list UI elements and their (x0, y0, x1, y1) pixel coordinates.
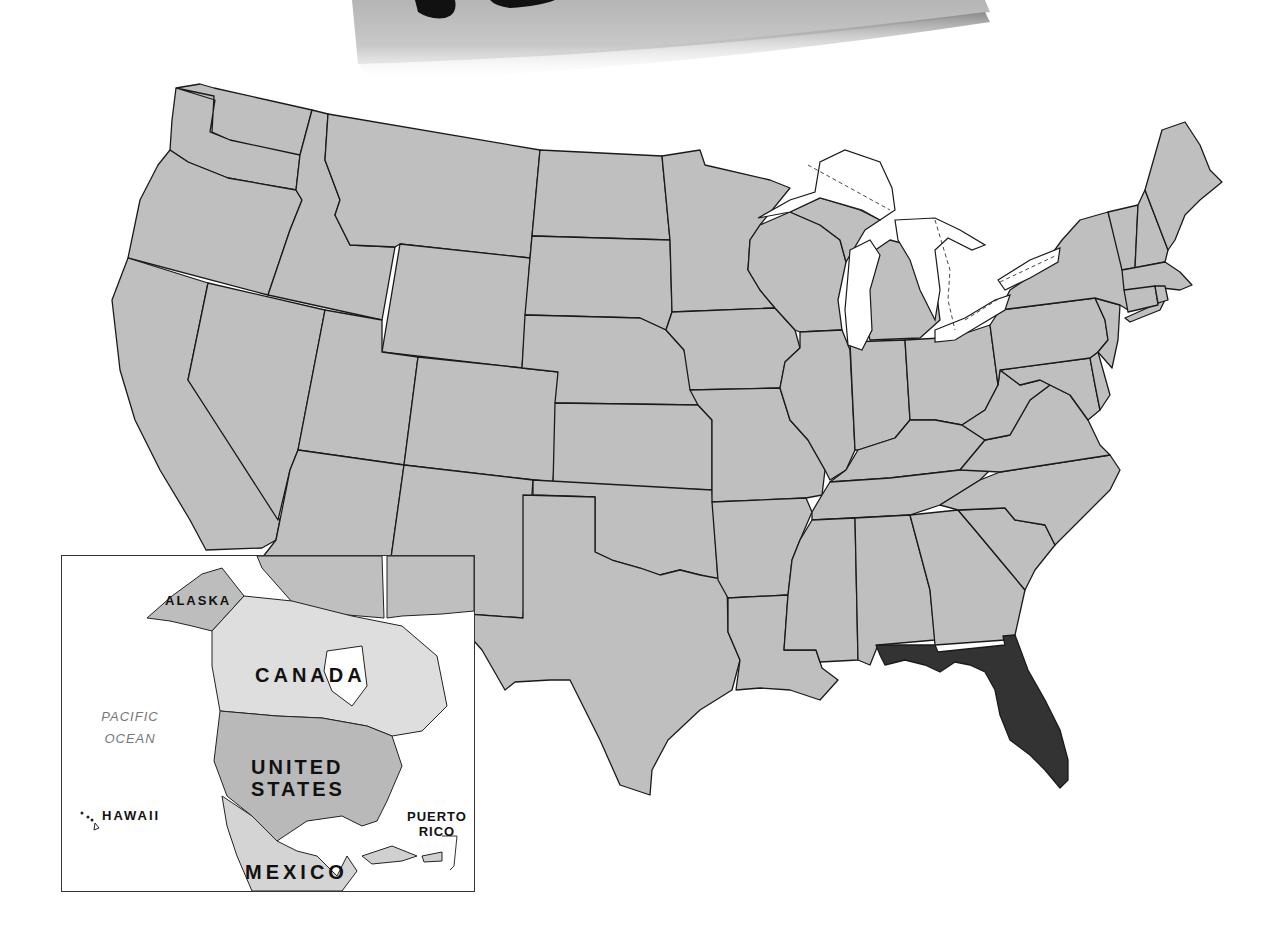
inset-north-america: ALASKA CANADA PACIFIC OCEAN UNITED STATE… (61, 555, 475, 892)
label-mexico: MEXICO (245, 861, 348, 884)
state-wyoming[interactable] (382, 244, 530, 368)
label-pacific-line1: PACIFIC (94, 706, 166, 728)
label-alaska: ALASKA (165, 593, 231, 608)
label-pacific-ocean: PACIFIC OCEAN (94, 706, 166, 750)
label-pr-line1: PUERTO (407, 809, 467, 824)
label-us-line1: UNITED (251, 756, 345, 778)
label-pacific-line2: OCEAN (94, 728, 166, 750)
label-hawaii: HAWAII (102, 808, 160, 823)
label-us-line2: STATES (251, 778, 345, 800)
state-montana[interactable] (325, 114, 540, 258)
label-puerto-rico: PUERTO RICO (407, 809, 467, 839)
state-florida[interactable] (876, 635, 1068, 788)
state-colorado[interactable] (404, 357, 560, 482)
state-north-dakota[interactable] (532, 150, 670, 240)
state-rhode-island[interactable] (1155, 286, 1168, 303)
label-canada: CANADA (255, 664, 366, 687)
state-kansas[interactable] (553, 403, 712, 490)
label-united-states: UNITED STATES (251, 756, 345, 800)
label-pr-line2: RICO (407, 824, 467, 839)
